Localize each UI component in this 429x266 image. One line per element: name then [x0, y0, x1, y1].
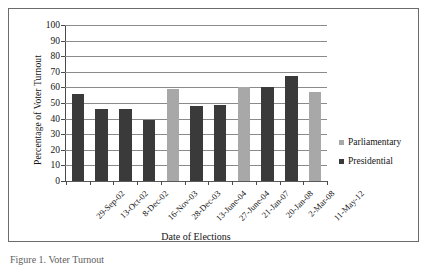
- bar-21-jan-07: [238, 87, 251, 181]
- x-tick-label: 11-May-12: [332, 188, 366, 222]
- bar-13-oct-02: [95, 109, 108, 181]
- y-tick-label: 20: [51, 145, 61, 155]
- figure-container: Percentage of Voter Turnout 100908070605…: [0, 0, 429, 266]
- bars-layer: [66, 25, 327, 181]
- y-tick-label: 90: [51, 36, 61, 46]
- y-tick-mark: [61, 72, 65, 73]
- figure-caption: Figure 1. Voter Turnout: [10, 254, 104, 265]
- y-tick-label: 70: [51, 67, 61, 77]
- y-tick-mark: [61, 41, 65, 42]
- y-tick-label: 30: [51, 129, 61, 139]
- chart-frame: Percentage of Voter Turnout 100908070605…: [8, 8, 419, 242]
- y-tick-label: 100: [46, 20, 60, 30]
- bar-2-mar-08: [285, 76, 298, 181]
- y-tick-mark: [61, 165, 65, 166]
- y-tick-mark: [61, 25, 65, 26]
- bar-20-jan-08: [261, 87, 274, 181]
- y-tick-label: 50: [51, 98, 61, 108]
- y-tick-label: 60: [51, 82, 61, 92]
- plot-area: 1009080706050403020100 29-Sep-0213-Oct-0…: [65, 25, 327, 181]
- bar-16-nov-03: [143, 120, 156, 181]
- legend-item-parliamentary: Parliamentary: [339, 137, 427, 147]
- y-tick-mark: [61, 56, 65, 57]
- bar-29-sep-02: [72, 94, 85, 181]
- chart-legend: ParliamentaryPresidential: [339, 137, 427, 175]
- y-axis-title: Percentage of Voter Turnout: [33, 35, 43, 185]
- bar-13-june-04: [190, 106, 203, 181]
- legend-item-presidential: Presidential: [339, 156, 427, 166]
- x-axis-tick-labels: 29-Sep-0213-Oct-028-Dec-0216-Nov-0328-De…: [66, 181, 327, 227]
- y-tick-mark: [61, 181, 65, 182]
- x-axis-title: Date of Elections: [65, 231, 327, 242]
- legend-label: Presidential: [348, 156, 393, 166]
- legend-swatch-icon: [339, 140, 344, 145]
- x-tick-mark: [327, 181, 328, 185]
- bar-27-june-04: [214, 105, 227, 181]
- y-tick-mark: [61, 87, 65, 88]
- bar-8-dec-02: [119, 109, 132, 181]
- y-tick-label: 80: [51, 51, 61, 61]
- y-tick-label: 40: [51, 114, 61, 124]
- bar-11-may-12: [309, 92, 322, 181]
- legend-label: Parliamentary: [348, 137, 401, 147]
- y-tick-label: 10: [51, 160, 61, 170]
- y-tick-label: 0: [55, 176, 60, 186]
- plot-inner: 1009080706050403020100 29-Sep-0213-Oct-0…: [65, 25, 327, 181]
- y-tick-mark: [61, 150, 65, 151]
- y-tick-mark: [61, 119, 65, 120]
- bar-28-dec-03: [167, 89, 180, 181]
- y-tick-mark: [61, 103, 65, 104]
- y-tick-mark: [61, 134, 65, 135]
- legend-swatch-icon: [339, 159, 344, 164]
